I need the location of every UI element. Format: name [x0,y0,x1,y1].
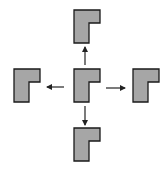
shape-up [74,10,100,43]
translation-diagram [0,0,167,171]
shape-down [74,128,100,161]
shape-left [14,69,40,102]
shape-right [133,69,159,102]
shape-center [74,69,100,102]
